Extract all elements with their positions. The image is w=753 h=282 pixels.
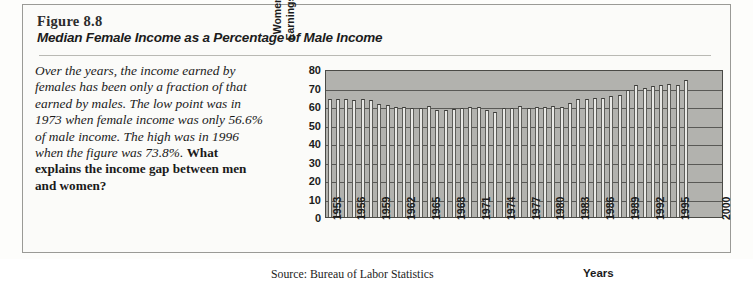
bar [618,95,622,217]
y-tick-label: 60 [309,102,321,112]
x-tick-label: 1983 [579,197,591,220]
source-note: Source: Bureau of Labor Statistics [271,267,434,282]
y-tick-label: 40 [309,139,321,149]
x-tick-label: 1977 [530,197,542,220]
x-tick-label: 1995 [679,197,691,220]
y-axis-ticks: 01020304050607080 [295,70,321,218]
figure-title: Median Female Income as a Percentage of … [37,30,382,45]
y-tick-label: 20 [309,176,321,186]
x-tick-label: 1986 [604,197,616,220]
x-axis-ticks: 1953195619591962196519681971197419771980… [325,220,723,264]
figure-box: Figure 8.8 Median Female Income as a Per… [22,4,731,253]
x-tick-label: 1989 [629,197,641,220]
bar [667,84,671,217]
x-tick-label: 1953 [331,197,343,220]
x-tick-label: 1980 [554,197,566,220]
bar [543,107,547,217]
x-axis-title: Years [583,267,614,279]
bar [643,88,647,217]
bar [419,108,423,217]
x-tick-label: 1956 [355,197,367,220]
y-tick-label: 30 [309,158,321,168]
figure-caption: Over the years, the income earned by fem… [35,63,263,194]
y-tick-label: 50 [309,121,321,131]
bar [518,106,522,217]
y-tick-label: 70 [309,84,321,94]
bar [468,107,472,217]
bar [493,112,497,217]
x-tick-label: 1962 [405,197,417,220]
caption-text: Over the years, the income earned by fem… [35,63,263,160]
y-tick-label: 10 [309,195,321,205]
bar [568,103,572,217]
y-tick-label: 80 [309,65,321,75]
bar [344,99,348,217]
bar [593,98,597,218]
x-tick-label: 1992 [654,197,666,220]
x-tick-label: 2000 [720,197,732,220]
bar [394,107,398,217]
y-tick-label: 0 [315,213,321,223]
bar [444,110,448,217]
x-tick-label: 1965 [430,197,442,220]
bar-chart: Women/Men Earnings Ratio 010203040506070… [253,61,723,251]
figure-number: Figure 8.8 [37,13,103,30]
bar [369,100,373,217]
x-tick-label: 1971 [480,197,492,220]
x-tick-label: 1974 [505,197,517,220]
x-tick-label: 1968 [455,197,467,220]
x-tick-label: 1959 [380,197,392,220]
title-divider [39,55,711,56]
y-axis-title-line2: Earnings Ratio [285,0,303,71]
